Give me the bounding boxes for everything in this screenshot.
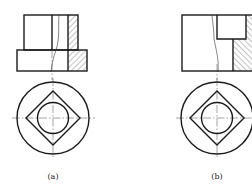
section-hatching	[233, 15, 252, 71]
view-a: (a)	[12, 15, 95, 181]
view-b-front	[182, 15, 252, 80]
step-outline	[217, 15, 246, 39]
view-a-front	[17, 15, 87, 80]
view-b: (b)	[176, 15, 252, 181]
technical-drawing: (a) (b)	[0, 0, 252, 194]
view-b-top	[176, 78, 252, 158]
caption-b: (b)	[211, 172, 222, 181]
view-a-top	[12, 78, 95, 158]
caption-a: (a)	[47, 172, 58, 181]
